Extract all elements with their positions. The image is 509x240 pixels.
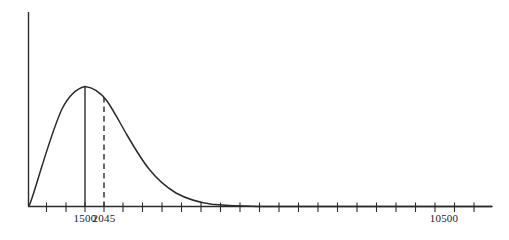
density-curve (29, 87, 492, 207)
x-axis-tick-label-mean: 2045 (93, 212, 116, 224)
x-axis-tick-label-10500: 10500 (430, 212, 459, 224)
distribution-chart: 1500 2045 10500 (0, 0, 509, 240)
chart-canvas (0, 0, 509, 240)
